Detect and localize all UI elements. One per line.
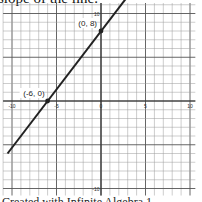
x-tick-label: -10 (8, 103, 15, 109)
x-tick-label: 10 (187, 103, 193, 109)
point-marker (99, 29, 104, 34)
footer-credit: Created with Infinite Algebra 1 (2, 196, 152, 202)
x-tick-label: 5 (144, 103, 147, 109)
point-label: (0, 8) (78, 19, 97, 28)
y-tick-label: -10 (92, 186, 99, 192)
point-marker (45, 99, 50, 104)
y-tick-label: 10 (94, 11, 100, 17)
point-label: (-6, 0) (23, 89, 45, 98)
coordinate-plane: -10-50510-1010 (-6, 0)(0, 8) (0, 0, 202, 202)
line-series (8, 0, 126, 154)
x-tick-label: -5 (54, 103, 59, 109)
x-tick-label: 0 (100, 103, 103, 109)
plotted-line (8, 0, 126, 154)
